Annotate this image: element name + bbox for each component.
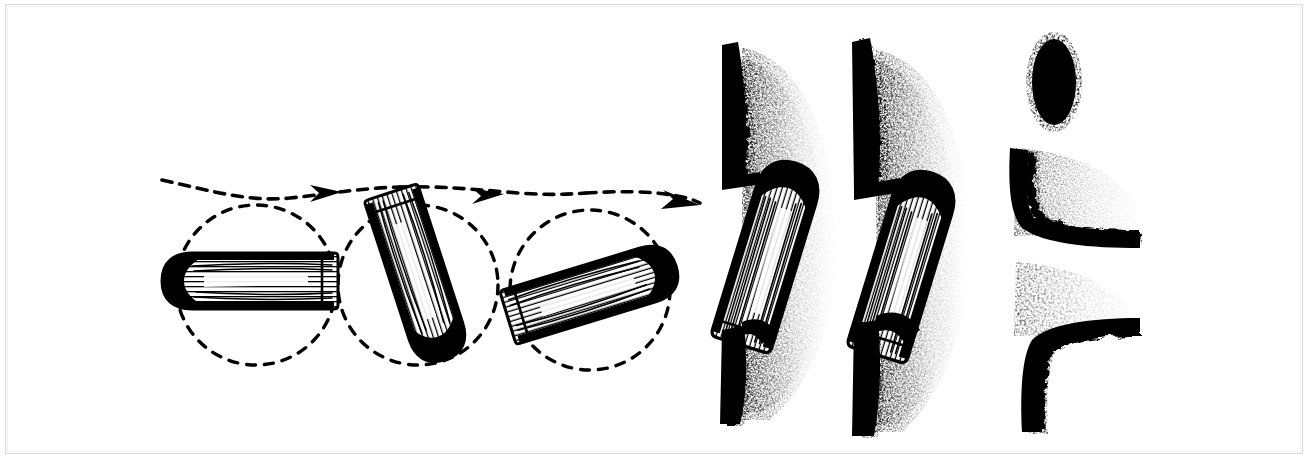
bullet-1-highlight [204,274,308,287]
stage-3-tissue-lower-ragged [1033,322,1140,430]
bullet-stage-1 [162,253,338,309]
flight-path-segment-1 [162,180,400,199]
illustration-canvas [0,0,1309,460]
bullet-1-shade-top [184,253,334,260]
stage-3-bullet-cross-section [1026,32,1082,132]
illustration-plate: Bullet tumbling and wound channel format… [0,0,1309,460]
stage-3-tissue-edge-lower [1021,318,1140,434]
trajectory-arrow-1 [310,185,342,202]
bullet-stage-2 [364,184,472,369]
stage-3-cross-section-core [1032,39,1076,125]
bullet-1-shade-bottom [184,301,334,309]
wound-channel-sequence [711,32,1142,438]
tumbling-trajectory-sequence [162,180,700,370]
dashed-flight-path [162,180,700,203]
wound-stage-3-exit [1009,32,1142,434]
wound-stage-2-passage [847,38,971,438]
bullet-stage-3 [500,239,685,344]
wound-stage-1-entry [711,42,837,426]
